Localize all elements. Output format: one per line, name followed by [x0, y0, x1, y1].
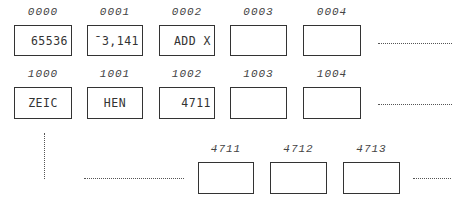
address-label: 0003 — [230, 6, 287, 18]
memory-cell: 65536 — [14, 25, 72, 56]
continuation-dots — [413, 178, 451, 179]
memory-cell — [230, 25, 287, 56]
vertical-continuation-dots — [44, 133, 45, 179]
lead-in-dots — [84, 178, 184, 179]
address-label: 4713 — [343, 143, 400, 155]
memory-cell: ZEIC — [14, 87, 72, 119]
continuation-dots — [378, 43, 452, 44]
address-label: 0004 — [303, 6, 361, 18]
memory-cell: ADD X — [159, 25, 215, 56]
address-label: 0001 — [87, 6, 143, 18]
memory-cell — [198, 162, 254, 194]
address-label: 1004 — [303, 68, 361, 80]
address-label: 1001 — [87, 68, 143, 80]
address-label: 1000 — [14, 68, 72, 80]
memory-cell: 4711 — [159, 87, 215, 119]
memory-cell: ˉ3,141 — [87, 25, 143, 56]
memory-cell — [303, 87, 361, 119]
continuation-dots — [378, 104, 452, 105]
memory-cell: HEN — [87, 87, 143, 119]
memory-cell — [270, 162, 327, 194]
address-label: 4712 — [270, 143, 327, 155]
address-label: 1002 — [159, 68, 215, 80]
address-label: 4711 — [198, 143, 254, 155]
memory-cell — [230, 87, 287, 119]
address-label: 0000 — [14, 6, 72, 18]
address-label: 0002 — [159, 6, 215, 18]
memory-cell — [343, 162, 400, 194]
memory-cell — [303, 25, 361, 56]
address-label: 1003 — [230, 68, 287, 80]
